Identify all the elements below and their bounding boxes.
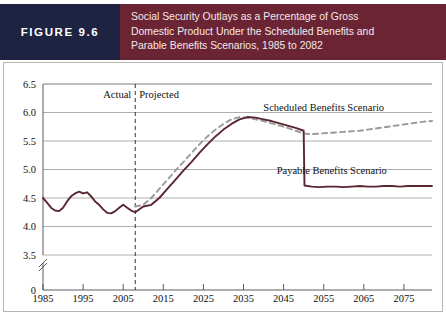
x-axis-tick-label: 2015 <box>153 293 174 304</box>
x-axis-tick-label: 2035 <box>233 293 254 304</box>
projected-label: Projected <box>139 89 179 100</box>
x-axis-tick-label: 1995 <box>73 293 94 304</box>
x-axis-tick-label: 2075 <box>393 293 414 304</box>
y-axis-tick-label: 3.5 <box>23 250 36 261</box>
y-axis-tick-label: 4.0 <box>23 221 36 232</box>
x-axis-tick-label: 2055 <box>313 293 334 304</box>
actual-label: Actual <box>103 89 131 100</box>
y-axis-tick-label: 6.0 <box>23 107 36 118</box>
y-axis-tick-label: 5.5 <box>23 136 36 147</box>
chart-plot-area: 3.54.04.55.05.56.06.50198519952005201520… <box>0 0 446 317</box>
x-axis-tick-label: 1985 <box>33 293 54 304</box>
series-line-scheduled-benefits-scenario <box>135 117 432 206</box>
y-axis-tick-label: 5.0 <box>23 164 36 175</box>
chart-svg: 3.54.04.55.05.56.06.50198519952005201520… <box>0 0 446 317</box>
y-axis-tick-label: 4.5 <box>23 193 36 204</box>
y-axis-tick-label: 6.5 <box>23 79 36 90</box>
x-axis-tick-label: 2045 <box>273 293 294 304</box>
x-axis-tick-label: 2005 <box>113 293 134 304</box>
figure-container: FIGURE 9.6 Social Security Outlays as a … <box>0 0 446 317</box>
series-label: Payable Benefits Scenario <box>277 165 387 176</box>
x-axis-tick-label: 2065 <box>353 293 374 304</box>
x-axis-tick-label: 2025 <box>193 293 214 304</box>
series-label: Scheduled Benefits Scenario <box>263 102 384 113</box>
